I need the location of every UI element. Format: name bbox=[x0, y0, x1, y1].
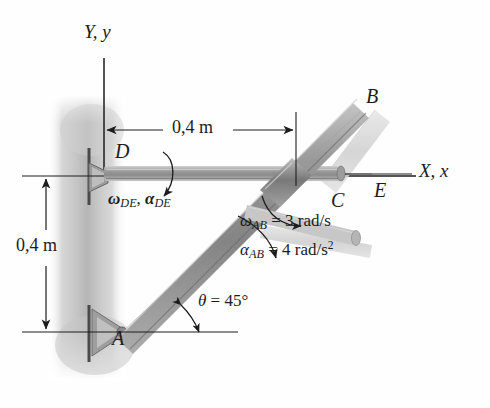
omega-de-symbol: ω bbox=[108, 189, 120, 208]
omega-ab-value: = 3 rad/s bbox=[271, 211, 331, 230]
omega-ab-symbol: ω bbox=[240, 211, 252, 230]
point-label-a: A bbox=[112, 328, 124, 348]
mechanism-figure bbox=[0, 0, 490, 408]
alpha-de-symbol: α bbox=[145, 189, 154, 208]
alpha-ab-symbol: α bbox=[240, 240, 249, 259]
alpha-ab-exponent: 2 bbox=[328, 239, 334, 252]
rod-de bbox=[104, 166, 372, 181]
dimension-label-horizontal: 0,4 m bbox=[172, 118, 213, 136]
axis-label-y: Y, y bbox=[84, 22, 111, 41]
alpha-ab-value: = 4 rad/s bbox=[268, 240, 328, 259]
point-label-e: E bbox=[374, 180, 386, 200]
alpha-ab-subscript: AB bbox=[249, 247, 264, 261]
point-label-c: C bbox=[331, 190, 344, 210]
kinematics-label-alpha-ab: αAB = 4 rad/s2 bbox=[240, 240, 334, 260]
alpha-de-subscript: DE bbox=[155, 196, 171, 210]
theta-value: = 45° bbox=[211, 291, 249, 310]
omega-ab-subscript: AB bbox=[252, 218, 267, 232]
omega-de-subscript: DE bbox=[120, 196, 136, 210]
dimension-label-vertical: 0,4 m bbox=[16, 236, 57, 254]
kinematics-label-de: ωDE, αDE bbox=[108, 190, 171, 209]
theta-symbol: θ bbox=[198, 291, 206, 310]
angle-label-theta: θ = 45° bbox=[198, 292, 248, 309]
point-label-d: D bbox=[115, 141, 129, 161]
de-comma: , bbox=[137, 189, 146, 208]
kinematics-label-omega-ab: ωAB = 3 rad/s bbox=[240, 212, 331, 231]
point-label-b: B bbox=[366, 86, 378, 106]
axis-label-x: X, x bbox=[419, 161, 449, 180]
